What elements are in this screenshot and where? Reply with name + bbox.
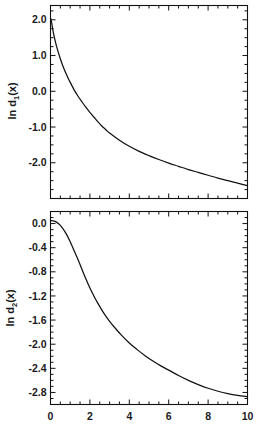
panel-top-ylabel-base: ln d (6, 100, 18, 120)
y-tick-label: -1.2 (28, 290, 46, 302)
y-tick-label: -0.8 (28, 265, 46, 277)
svg-text:ln d2(x): ln d2(x) (4, 289, 19, 327)
y-tick-label: 0.0 (32, 85, 47, 97)
x-tick-label: 4 (126, 410, 132, 422)
y-tick-label: -2.0 (28, 338, 46, 350)
y-tick-label: 2.0 (32, 13, 47, 25)
panel-top: 2.01.00.0-1.0-2.0 ln d1(x) (6, 6, 248, 199)
y-tick-label: -1.0 (28, 121, 46, 133)
panel-bottom-x-tick-labels: 0246810 (48, 410, 254, 422)
panel-bottom-ylabel-base: ln d (4, 307, 16, 327)
panel-top-curve (51, 18, 248, 186)
y-tick-label: -2.4 (28, 362, 46, 374)
x-tick-label: 10 (242, 410, 254, 422)
svg-text:ln d1(x): ln d1(x) (6, 82, 21, 120)
two-panel-line-chart: 2.01.00.0-1.0-2.0 ln d1(x) 0.0-0.4-0.8-1… (0, 0, 260, 429)
panel-top-ylabel-tail: (x) (6, 82, 18, 96)
panel-top-ylabel: ln d1(x) (6, 82, 21, 120)
y-tick-label: 0.0 (32, 217, 47, 229)
x-tick-label: 6 (166, 410, 172, 422)
panel-top-frame (51, 6, 248, 199)
panel-top-tick-labels: 2.01.00.0-1.0-2.0 (28, 13, 46, 168)
panel-bottom: 0.0-0.4-0.8-1.2-1.6-2.0-2.4-2.8 0246810 … (4, 212, 253, 422)
y-tick-label: -1.6 (28, 314, 46, 326)
y-tick-label: -0.4 (28, 241, 46, 253)
panel-bottom-ylabel-tail: (x) (4, 289, 16, 303)
y-tick-label: -2.8 (28, 386, 46, 398)
panel-bottom-tick-labels: 0.0-0.4-0.8-1.2-1.6-2.0-2.4-2.8 (28, 217, 46, 398)
panel-bottom-frame (51, 212, 248, 405)
panel-bottom-curve (51, 221, 248, 397)
x-tick-label: 0 (48, 410, 54, 422)
panel-top-ticks (51, 6, 248, 199)
x-tick-label: 8 (205, 410, 211, 422)
y-tick-label: 1.0 (32, 49, 47, 61)
y-tick-label: -2.0 (28, 156, 46, 168)
panel-bottom-ylabel: ln d2(x) (4, 289, 19, 327)
x-tick-label: 2 (87, 410, 93, 422)
panel-bottom-ticks (51, 212, 248, 405)
